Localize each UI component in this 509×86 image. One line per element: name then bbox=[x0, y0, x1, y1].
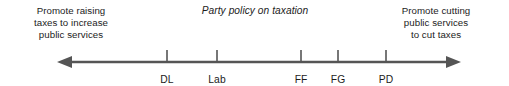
party-label-ff: FF bbox=[295, 74, 308, 85]
tick-marks-group bbox=[167, 50, 386, 62]
axis-left-arrowhead bbox=[57, 56, 72, 68]
party-label-lab: Lab bbox=[208, 74, 225, 85]
axis-area: Seats DL4Lab33FF68FG45PD10 bbox=[0, 36, 509, 86]
left-pole-line-1: Promote raising bbox=[0, 5, 144, 17]
party-label-fg: FG bbox=[331, 74, 345, 85]
party-label-pd: PD bbox=[379, 74, 393, 85]
axis-svg bbox=[0, 36, 509, 86]
right-pole-line-1: Promote cutting bbox=[363, 5, 509, 17]
chart-title: Party policy on taxation bbox=[146, 5, 364, 16]
right-pole-line-2: public services bbox=[363, 17, 509, 29]
party-label-dl: DL bbox=[160, 74, 173, 85]
axis-right-arrowhead bbox=[446, 56, 461, 68]
taxation-policy-number-line-figure: Promote raising taxes to increase public… bbox=[0, 0, 509, 86]
left-pole-line-2: taxes to increase bbox=[0, 17, 144, 29]
